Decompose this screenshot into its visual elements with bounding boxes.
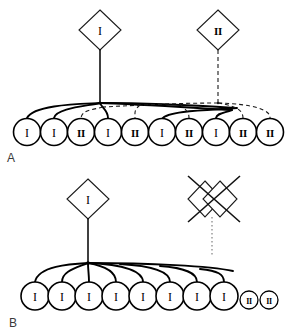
offspring-link-solid: [200, 269, 224, 282]
extra-offspring-row-b: II II: [240, 291, 278, 309]
offspring-label: II: [77, 127, 85, 139]
offspring-node-small: II: [260, 291, 278, 309]
founder-diamond-ii-a: II: [197, 10, 239, 103]
offspring-label: I: [222, 290, 226, 304]
offspring-node: I: [129, 282, 157, 310]
founder-label-ii: II: [214, 25, 222, 37]
offspring-label: I: [168, 290, 172, 304]
offspring-node: I: [95, 119, 122, 146]
offspring-label: I: [214, 126, 218, 140]
offspring-label: I: [60, 290, 64, 304]
offspring-label: II: [185, 127, 193, 139]
pedigree-figure: I II: [0, 0, 299, 335]
panel-letter-a: A: [7, 151, 15, 165]
offspring-label: II: [266, 297, 272, 306]
founder-diamond-i-a: I: [79, 10, 121, 103]
offspring-node: I: [210, 282, 238, 310]
offspring-node-small: II: [240, 291, 258, 309]
offspring-node: I: [102, 282, 130, 310]
offspring-node: I: [14, 119, 41, 146]
panel-a: I II: [7, 10, 284, 165]
founder-label-i: I: [98, 24, 102, 38]
offspring-node: I: [48, 282, 76, 310]
panel-b: I: [9, 176, 278, 330]
offspring-link-solid: [88, 263, 89, 282]
offspring-label: II: [246, 297, 252, 306]
offspring-node: I: [156, 282, 184, 310]
offspring-node: II: [68, 119, 95, 146]
junction-solid-dot: [98, 101, 101, 104]
offspring-node: I: [149, 119, 176, 146]
offspring-label: I: [195, 290, 199, 304]
offspring-label: I: [25, 126, 29, 140]
offspring-label: I: [33, 290, 37, 304]
offspring-label: I: [87, 290, 91, 304]
offspring-label: I: [160, 126, 164, 140]
junction-dashed-dot: [217, 102, 219, 104]
offspring-label: II: [239, 127, 247, 139]
offspring-link-dashed: [81, 107, 103, 118]
offspring-label: I: [52, 126, 56, 140]
offspring-node: I: [203, 119, 230, 146]
offspring-label: II: [131, 127, 139, 139]
offspring-label: I: [106, 126, 110, 140]
offspring-link-dashed: [135, 105, 140, 118]
founder-diamond-i-b: I: [67, 179, 109, 263]
offspring-label: I: [114, 290, 118, 304]
panel-letter-b: B: [9, 316, 17, 330]
offspring-node: II: [230, 119, 257, 146]
offspring-node: II: [122, 119, 149, 146]
offspring-link-solid: [100, 103, 108, 118]
offspring-node: II: [257, 119, 284, 146]
founder-label-i: I: [86, 193, 90, 207]
figure-canvas: I II: [0, 0, 299, 335]
offspring-node: I: [21, 282, 49, 310]
founder-excluded-crossed-b: [188, 176, 240, 255]
offspring-row-a: I I II I II: [14, 119, 284, 146]
offspring-row-b: I I I I I: [21, 282, 238, 310]
offspring-node: I: [41, 119, 68, 146]
offspring-link-solid: [216, 110, 232, 118]
offspring-label: II: [266, 127, 274, 139]
offspring-node: I: [183, 282, 211, 310]
offspring-node: I: [75, 282, 103, 310]
junction-solid-dot: [86, 261, 90, 265]
offspring-label: I: [141, 290, 145, 304]
offspring-link-solid: [162, 108, 237, 119]
offspring-node: II: [176, 119, 203, 146]
